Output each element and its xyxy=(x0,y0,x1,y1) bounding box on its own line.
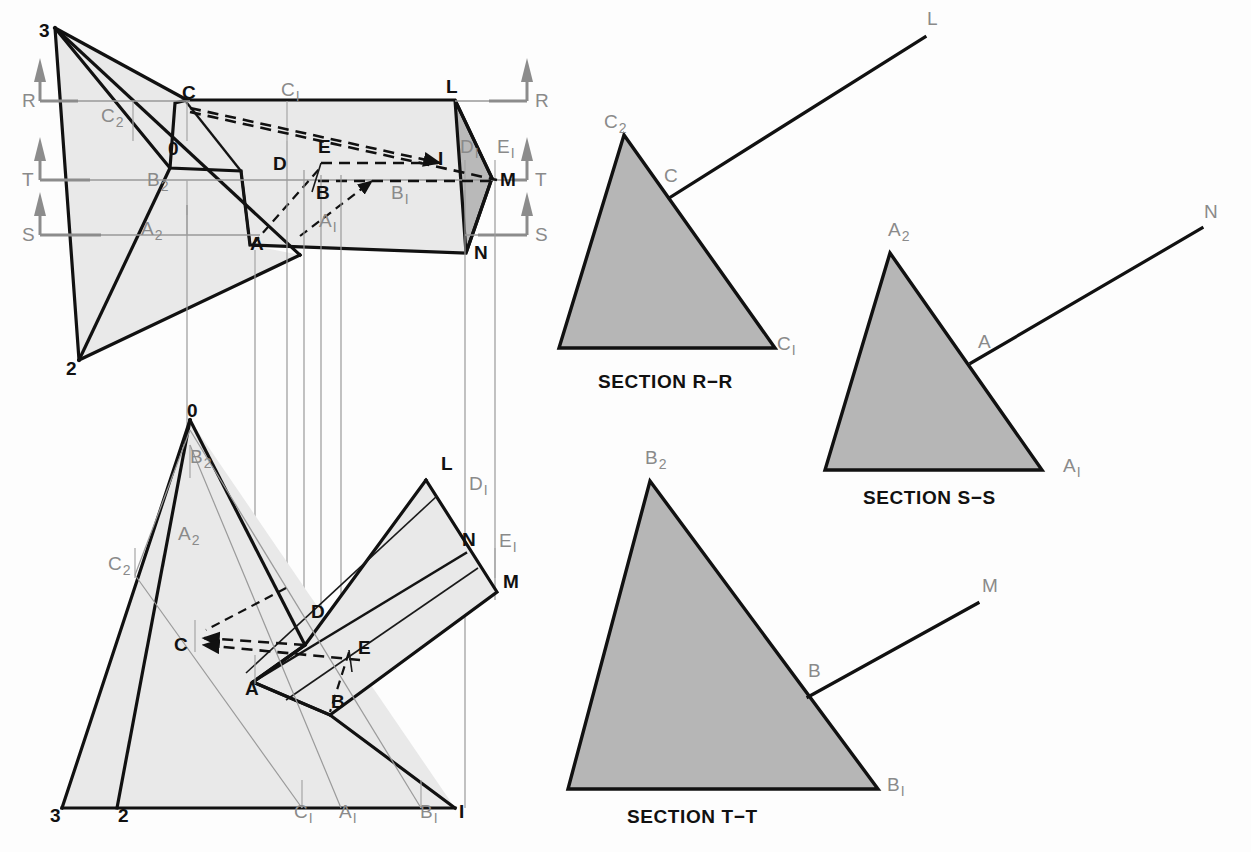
section-s-s-label-A1: AI xyxy=(1063,455,1081,480)
section-t-t-label-B2: B2 xyxy=(645,447,667,472)
front-view-label-N: N xyxy=(462,529,476,550)
top-view-label-v0: 0 xyxy=(168,138,179,159)
section-r-r-label-C: C xyxy=(664,165,678,186)
top-view-label-N: N xyxy=(474,242,488,263)
section-s-s-label-A: A xyxy=(978,331,991,352)
front-view xyxy=(62,420,497,808)
top-view-label-D: D xyxy=(273,153,287,174)
section-r-r-label-C2: C2 xyxy=(604,111,627,136)
section-r-r-label-C1: CI xyxy=(777,333,796,358)
top-view-label-v3: 3 xyxy=(39,20,50,41)
section-t-t-shape xyxy=(568,481,878,789)
front-view-label-E: E xyxy=(358,637,371,658)
section-r-r-label-L: L xyxy=(927,8,938,29)
engineering-drawing-figure: R T S R T xyxy=(0,0,1251,852)
section-s-s-shape xyxy=(825,253,1042,470)
top-view-label-E: E xyxy=(318,136,331,157)
top-view-label-A: A xyxy=(250,233,264,254)
section-s-s: SECTION S−S xyxy=(825,228,1202,508)
section-t-t: SECTION T−T xyxy=(568,481,978,827)
top-view-label-v2: 2 xyxy=(66,358,77,379)
top-view-label-L: L xyxy=(446,76,458,97)
front-view-label-v2: 2 xyxy=(118,805,129,826)
cut-label-T-right: T xyxy=(535,169,547,190)
front-view-label-L: L xyxy=(441,453,453,474)
section-t-t-label-B1: BI xyxy=(887,774,905,799)
section-t-t-label-M: M xyxy=(982,575,998,596)
front-view-label-I: I xyxy=(459,801,464,822)
top-view-label-M: M xyxy=(500,169,516,190)
front-view-label-M: M xyxy=(503,571,519,592)
top-view-label-I: I xyxy=(438,148,443,169)
section-t-t-ray-to-M xyxy=(808,603,978,697)
front-view-label-A: A xyxy=(245,678,259,699)
section-s-s-label-A2: A2 xyxy=(888,219,910,244)
top-view-label-E1: EI xyxy=(497,136,515,161)
top-view-label-B: B xyxy=(316,182,330,203)
front-view-label-v3: 3 xyxy=(50,805,61,826)
top-view-label-C: C xyxy=(182,82,196,103)
front-view-label-C: C xyxy=(174,634,188,655)
section-s-s-ray-to-N xyxy=(971,228,1202,363)
cut-plane-right-S: S xyxy=(478,192,548,245)
front-view-label-E1: EI xyxy=(499,530,517,555)
cut-label-S-right: S xyxy=(535,224,548,245)
section-t-t-label-B: B xyxy=(808,660,821,681)
front-view-label-D: D xyxy=(311,601,325,622)
cut-label-S-left: S xyxy=(22,224,35,245)
front-view-label-C2: C2 xyxy=(108,553,131,578)
front-view-label-O: 0 xyxy=(187,400,198,421)
cut-label-R-right: R xyxy=(535,90,549,111)
cut-label-R-left: R xyxy=(22,90,36,111)
cut-label-T-left: T xyxy=(22,169,34,190)
section-t-t-title: SECTION T−T xyxy=(627,806,758,827)
technical-drawing-canvas: R T S R T xyxy=(0,0,1251,852)
section-r-r-ray-to-L xyxy=(669,37,925,198)
cut-plane-right-R: R xyxy=(489,58,549,111)
section-s-s-label-N: N xyxy=(1204,201,1218,222)
cut-plane-right-T: T xyxy=(512,137,547,190)
section-r-r-title: SECTION R−R xyxy=(598,371,733,392)
section-s-s-title: SECTION S−S xyxy=(863,487,996,508)
top-view: R T S R T xyxy=(22,28,549,360)
front-view-label-D1: DI xyxy=(469,473,488,498)
front-view-label-B: B xyxy=(331,691,345,712)
